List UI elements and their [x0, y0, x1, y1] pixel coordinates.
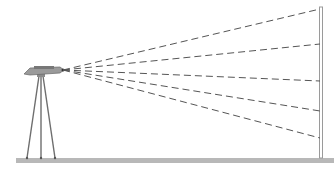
laser-beams — [63, 9, 320, 138]
instrument-top — [34, 66, 54, 69]
laser-beam-5 — [63, 70, 320, 138]
laser-beam-1 — [63, 9, 320, 70]
laser-beam-3 — [63, 70, 320, 81]
diagram-canvas — [0, 0, 334, 173]
tripod-foot-center — [40, 157, 42, 159]
tripod — [26, 72, 56, 159]
tripod-leg-right — [43, 76, 55, 158]
tripod-foot-left — [26, 157, 28, 159]
laser-level-instrument — [24, 66, 65, 75]
wall — [320, 7, 323, 158]
tripod-foot-right — [54, 157, 56, 159]
laser-level-diagram — [0, 0, 334, 173]
tripod-leg-left — [27, 76, 39, 158]
laser-beam-4 — [63, 70, 320, 111]
laser-beam-2 — [63, 44, 320, 70]
ground-surface — [16, 158, 334, 163]
